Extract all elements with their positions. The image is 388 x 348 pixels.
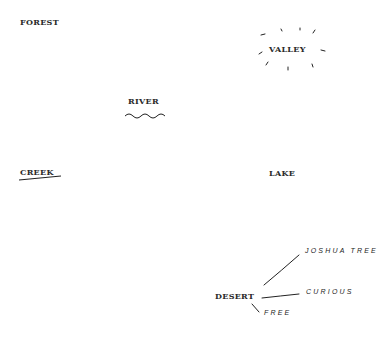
- word-creek: CREEK: [20, 167, 54, 177]
- branch-free: FREE: [264, 309, 291, 316]
- desert-branch-lines: [252, 255, 299, 312]
- branch-curious: CURIOUS: [306, 288, 354, 295]
- word-valley: VALLEY: [269, 44, 306, 54]
- doodles-layer: [0, 0, 388, 348]
- word-forest: FOREST: [20, 17, 59, 27]
- branch-joshua-tree: JOSHUA TREE: [305, 247, 378, 254]
- word-lake: LAKE: [269, 168, 295, 178]
- word-desert: DESERT: [215, 291, 254, 301]
- word-river: RIVER: [128, 96, 159, 106]
- river-wave-icon: [125, 114, 165, 118]
